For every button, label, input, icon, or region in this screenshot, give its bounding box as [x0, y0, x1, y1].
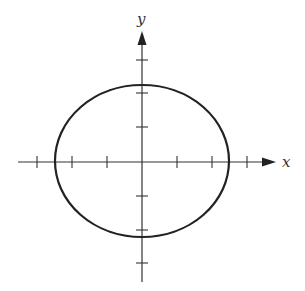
- ellipse-diagram: x y: [0, 0, 305, 291]
- y-axis-arrow-icon: [138, 31, 147, 45]
- y-axis-label: y: [136, 10, 146, 28]
- x-axis-arrow-icon: [262, 158, 276, 167]
- x-axis-label: x: [282, 153, 291, 171]
